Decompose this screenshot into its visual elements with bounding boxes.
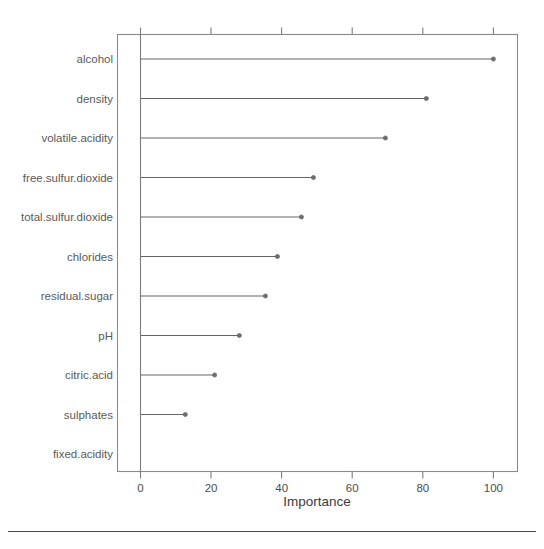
data-point-dot (424, 96, 428, 100)
category-label-residual-sugar: residual.sugar (41, 290, 113, 302)
x-axis-tickmarks (141, 28, 494, 479)
chart-row (141, 294, 268, 298)
x-tick-label-layer: 020406080100 (137, 482, 503, 494)
category-label-layer: alcoholdensityvolatile.acidityfree.sulfu… (21, 53, 113, 460)
x-tick-label: 20 (205, 482, 218, 494)
category-label-density: density (77, 93, 114, 105)
category-label-pH: pH (98, 330, 113, 342)
category-label-sulphates: sulphates (64, 409, 113, 421)
category-label-total-sulfur-dioxide: total.sulfur.dioxide (21, 211, 113, 223)
category-label-chlorides: chlorides (67, 251, 113, 263)
series-layer (141, 57, 496, 417)
data-point-dot (491, 57, 495, 61)
data-point-dot (263, 294, 267, 298)
chart-row (141, 254, 280, 258)
plot-frame (118, 35, 518, 472)
chart-canvas: alcoholdensityvolatile.acidityfree.sulfu… (0, 0, 544, 549)
category-label-volatile-acidity: volatile.acidity (41, 132, 113, 144)
data-point-dot (213, 373, 217, 377)
data-point-dot (275, 254, 279, 258)
x-axis-title: Importance (283, 494, 351, 509)
chart-row (141, 412, 188, 416)
x-tick-label: 60 (346, 482, 359, 494)
chart-row (141, 373, 217, 377)
x-tick-label: 40 (275, 482, 288, 494)
chart-row (141, 215, 304, 219)
chart-row (141, 175, 316, 179)
data-point-dot (183, 412, 187, 416)
chart-row (141, 57, 496, 61)
data-point-dot (299, 215, 303, 219)
data-point-dot (311, 175, 315, 179)
chart-row (141, 136, 388, 140)
data-point-dot (383, 136, 387, 140)
x-tick-label: 80 (416, 482, 429, 494)
x-tick-label: 100 (484, 482, 503, 494)
chart-row (141, 333, 242, 337)
category-label-free-sulfur-dioxide: free.sulfur.dioxide (23, 172, 113, 184)
data-point-dot (237, 333, 241, 337)
category-label-fixed-acidity: fixed.acidity (53, 448, 113, 460)
variable-importance-chart: alcoholdensityvolatile.acidityfree.sulfu… (0, 0, 544, 549)
chart-row (141, 96, 429, 100)
x-tick-label: 0 (137, 482, 143, 494)
category-label-alcohol: alcohol (77, 53, 113, 65)
category-label-citric-acid: citric.acid (65, 369, 113, 381)
